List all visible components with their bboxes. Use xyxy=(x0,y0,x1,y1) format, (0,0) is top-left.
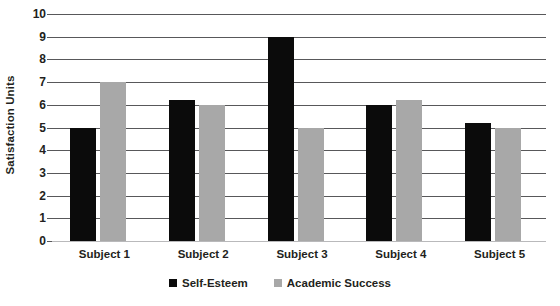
legend-item[interactable]: Academic Success xyxy=(274,277,391,289)
bar[interactable] xyxy=(70,128,96,242)
x-axis-label: Subject 1 xyxy=(52,248,151,260)
y-tick-label-5: 5 xyxy=(22,122,46,134)
bar[interactable] xyxy=(465,123,491,241)
x-axis-label: Subject 4 xyxy=(348,248,447,260)
y-tick-label-8: 8 xyxy=(22,53,46,65)
chart-title-cropped xyxy=(0,0,560,7)
bar-group xyxy=(250,14,349,241)
y-tick-label-9: 9 xyxy=(22,31,46,43)
y-tick-label-2: 2 xyxy=(22,190,46,202)
legend-label: Self-Esteem xyxy=(182,277,248,289)
y-tick-label-10: 10 xyxy=(22,8,46,20)
bar[interactable] xyxy=(199,105,225,241)
bar-group xyxy=(447,14,546,241)
y-tick-label-4: 4 xyxy=(22,144,46,156)
x-axis-label: Subject 5 xyxy=(447,248,546,260)
legend-swatch-icon xyxy=(274,279,282,287)
legend-label: Academic Success xyxy=(287,277,391,289)
bar-groups xyxy=(52,14,546,241)
y-axis-title-label: Satisfaction Units xyxy=(4,76,16,175)
bar-group xyxy=(52,14,151,241)
y-tick-label-3: 3 xyxy=(22,167,46,179)
bar-group xyxy=(151,14,250,241)
plot-area xyxy=(52,14,546,241)
y-tick-label-0: 0 xyxy=(22,235,46,247)
x-axis-label: Subject 2 xyxy=(151,248,250,260)
bar[interactable] xyxy=(396,100,422,241)
gridline-0 xyxy=(52,241,546,242)
legend-swatch-icon xyxy=(169,279,177,287)
legend-item[interactable]: Self-Esteem xyxy=(169,277,248,289)
chart-legend: Self-EsteemAcademic Success xyxy=(0,277,560,289)
bar[interactable] xyxy=(268,37,294,241)
bar[interactable] xyxy=(169,100,195,241)
x-axis-label: Subject 3 xyxy=(250,248,349,260)
y-tick-label-1: 1 xyxy=(22,212,46,224)
y-tick-label-6: 6 xyxy=(22,99,46,111)
y-axis-title: Satisfaction Units xyxy=(0,0,20,250)
y-tick-label-7: 7 xyxy=(22,76,46,88)
bar[interactable] xyxy=(100,82,126,241)
bar[interactable] xyxy=(298,128,324,242)
x-axis-labels: Subject 1Subject 2Subject 3Subject 4Subj… xyxy=(52,248,546,260)
bar[interactable] xyxy=(495,128,521,242)
bar[interactable] xyxy=(366,105,392,241)
bar-group xyxy=(348,14,447,241)
bar-chart: Satisfaction Units 109876543210 Subject … xyxy=(0,0,560,306)
